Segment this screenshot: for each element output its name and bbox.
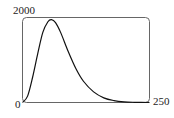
data-curve <box>23 20 150 103</box>
plot-area <box>0 0 174 118</box>
plot-frame <box>23 18 150 103</box>
